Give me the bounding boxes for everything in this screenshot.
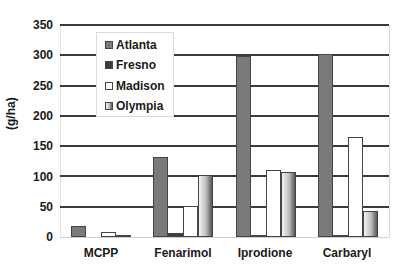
gridline	[60, 145, 389, 147]
legend-item-fresno: Fresno	[105, 58, 156, 72]
bar-olympia-fenarimol	[198, 175, 213, 237]
bar-olympia-carbaryl	[363, 211, 378, 237]
legend-item-olympia: Olympia	[105, 99, 163, 113]
y-tick: 350	[13, 18, 53, 32]
y-tick: 50	[13, 200, 53, 214]
bar-madison-iprodione	[266, 170, 281, 237]
gridline	[60, 206, 389, 208]
y-tick: 100	[13, 170, 53, 184]
x-axis-line	[60, 237, 389, 238]
y-tick: 250	[13, 79, 53, 93]
legend-item-madison: Madison	[105, 79, 165, 93]
y-tick: 150	[13, 139, 53, 153]
gridline	[60, 175, 389, 177]
bar-atlanta-fenarimol	[153, 157, 168, 237]
bar-olympia-mcpp	[116, 235, 131, 237]
x-category-label: Iprodione	[224, 246, 306, 260]
legend-swatch-icon	[105, 41, 113, 49]
y-tick: 0	[13, 230, 53, 244]
y-tick: 200	[13, 109, 53, 123]
legend-label: Atlanta	[116, 38, 157, 52]
legend-label: Fresno	[116, 58, 156, 72]
legend-item-atlanta: Atlanta	[105, 38, 157, 52]
bar-madison-mcpp	[101, 232, 116, 237]
bar-olympia-iprodione	[281, 172, 296, 237]
bar-chart: (g/ha) 0 50 100 150 200 250 300 350 MCPP…	[0, 0, 403, 277]
legend-swatch-icon	[105, 82, 113, 90]
bar-fresno-iprodione	[251, 235, 266, 237]
bar-fresno-carbaryl	[333, 235, 348, 237]
legend-label: Madison	[116, 79, 165, 93]
gridline	[60, 24, 389, 26]
bar-atlanta-carbaryl	[318, 54, 333, 237]
x-category-label: Fenarimol	[142, 246, 224, 260]
legend: Atlanta Fresno Madison Olympia	[96, 32, 174, 117]
x-category-label: MCPP	[60, 246, 142, 260]
legend-swatch-icon	[105, 61, 113, 69]
bar-madison-carbaryl	[348, 137, 363, 237]
bar-madison-fenarimol	[183, 206, 198, 237]
bar-fresno-fenarimol	[168, 233, 183, 237]
legend-swatch-icon	[105, 102, 113, 110]
x-category-label: Carbaryl	[306, 246, 388, 260]
bar-atlanta-mcpp	[71, 226, 86, 238]
y-tick: 300	[13, 48, 53, 62]
bar-atlanta-iprodione	[236, 56, 251, 237]
legend-label: Olympia	[116, 99, 163, 113]
